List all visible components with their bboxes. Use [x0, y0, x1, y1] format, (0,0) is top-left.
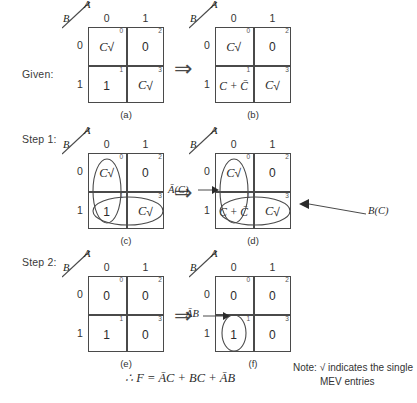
check-icon: √ [107, 166, 114, 180]
cell-value: C√ [127, 192, 164, 229]
kmap-d-caption: (d) [215, 235, 291, 246]
cell-value: 1 [88, 66, 125, 103]
kmap-a: A B 0 1 0 1 0 C√ 2 0 1 1 3 C√ (a) [88, 27, 164, 103]
kmap-d-row-header-0: 0 [202, 165, 212, 177]
kmap-a-cell-0: 0 C√ [88, 27, 125, 64]
axis-label-b: B [190, 13, 196, 24]
kmap-e-cell-3: 3 0 [127, 315, 164, 352]
kmap-c-row-header-1: 1 [75, 204, 85, 216]
check-icon: √ [234, 166, 241, 180]
cell-value: 0 [127, 315, 164, 352]
kmap-d-cell-3: 3 C√ [254, 192, 291, 229]
kmap-f-cell-2: 2 0 [254, 276, 291, 313]
kmap-c-cell-3: 3 C√ [127, 192, 164, 229]
step1-label: Step 1: [22, 133, 57, 145]
kmap-f-col-header-0: 0 [215, 261, 252, 273]
check-icon: √ [234, 40, 241, 54]
kmap-e-row-header-1: 1 [75, 327, 85, 339]
cell-value: C + C̄ [215, 66, 252, 103]
kmap-b: A B 0 1 0 1 0 C√ 2 0 1 C + C̄ 3 C√ (b) [215, 27, 291, 103]
kmap-d-cell-0: 0 C√ [215, 153, 252, 190]
cell-value: 0 [254, 315, 291, 352]
kmap-e-cell-2: 2 0 [127, 276, 164, 313]
kmap-d-col-header-0: 0 [215, 138, 252, 150]
check-icon: √ [146, 205, 153, 219]
kmap-b-col-header-1: 1 [254, 12, 291, 24]
leader-a-bar-c [198, 183, 220, 197]
kmap-a-col-header-1: 1 [127, 12, 164, 24]
cell-value: 0 [215, 276, 252, 313]
cell-value: C√ [215, 153, 252, 190]
cell-value: C√ [88, 27, 125, 64]
kmap-b-cell-3: 3 C√ [254, 66, 291, 103]
axis-label-a: A [211, 0, 217, 10]
implies-arrow-ab: ⇒ [174, 58, 192, 80]
kmap-b-cell-2: 2 0 [254, 27, 291, 64]
axis-label-a: A [211, 248, 217, 259]
kmap-b-row-header-1: 1 [202, 78, 212, 90]
kmap-e-caption: (e) [88, 358, 164, 369]
kmap-f-cell-0: 0 0 [215, 276, 252, 313]
kmap-c-col-header-1: 1 [127, 138, 164, 150]
kmap-c-cell-2: 2 0 [127, 153, 164, 190]
cell-value: C√ [215, 27, 252, 64]
check-icon: √ [273, 205, 280, 219]
note-line-2: MEV entries [320, 375, 374, 389]
cell-value: C√ [127, 66, 164, 103]
kmap-c-col-header-0: 0 [88, 138, 125, 150]
cell-value: 0 [254, 276, 291, 313]
kmap-d-cell-2: 2 0 [254, 153, 291, 190]
axis-label-b: B [190, 262, 196, 273]
cell-value: C√ [254, 192, 291, 229]
kmap-d-col-header-1: 1 [254, 138, 291, 150]
axis-label-b: B [63, 262, 69, 273]
kmap-e-row-header-0: 0 [75, 288, 85, 300]
axis-label-b: B [63, 139, 69, 150]
note-line-1: Note: √ indicates the single [293, 361, 413, 375]
kmap-a-col-header-0: 0 [88, 12, 125, 24]
check-icon: √ [273, 79, 280, 93]
cell-value: 0 [254, 153, 291, 190]
step2-label: Step 2: [22, 256, 57, 268]
kmap-e-col-header-1: 1 [127, 261, 164, 273]
kmap-b-row-header-0: 0 [202, 39, 212, 51]
leader-b-c [295, 196, 367, 218]
kmap-f-cell-3: 3 0 [254, 315, 291, 352]
kmap-a-cell-3: 3 C√ [127, 66, 164, 103]
kmap-a-caption: (a) [88, 109, 164, 120]
axis-label-b: B [190, 139, 196, 150]
kmap-b-col-header-0: 0 [215, 12, 252, 24]
annotation-a-bar-c: Ā(C) [168, 184, 188, 195]
axis-label-a: A [84, 125, 90, 136]
kmap-a-cell-1: 1 1 [88, 66, 125, 103]
kmap-d: A B 0 1 0 1 0 C√ 2 0 1 C + C̄ 3 C√ (d) [215, 153, 291, 229]
axis-label-a: A [211, 125, 217, 136]
cell-value: 1 [88, 315, 125, 352]
kmap-a-row-header-1: 1 [75, 78, 85, 90]
axis-label-b: B [63, 13, 69, 24]
cell-value: 0 [254, 27, 291, 64]
result-formula: ∴ F = ĀC + BC + ĀB [125, 370, 235, 386]
kmap-c-row-header-0: 0 [75, 165, 85, 177]
kmap-d-cell-1: 1 C + C̄ [215, 192, 252, 229]
leader-a-bar-b [203, 310, 231, 322]
check-icon: √ [146, 79, 153, 93]
kmap-b-caption: (b) [215, 109, 291, 120]
cell-value: 0 [127, 27, 164, 64]
kmap-a-cell-2: 2 0 [127, 27, 164, 64]
cell-value: 0 [127, 153, 164, 190]
cell-value: 0 [88, 276, 125, 313]
cell-value: 0 [127, 276, 164, 313]
kmap-b-cell-1: 1 C + C̄ [215, 66, 252, 103]
given-label: Given: [22, 68, 54, 80]
kmap-c-cell-0: 0 C√ [88, 153, 125, 190]
axis-label-a: A [84, 248, 90, 259]
cell-value: C + C̄ [215, 192, 252, 229]
kmap-c-cell-1: 1 1 [88, 192, 125, 229]
kmap-f-row-header-0: 0 [202, 288, 212, 300]
axis-label-a: A [84, 0, 90, 10]
annotation-b-c: B(C) [368, 205, 388, 216]
cell-value: C√ [88, 153, 125, 190]
kmap-c: A B 0 1 0 1 0 C√ 2 0 1 1 3 C√ (c) [88, 153, 164, 229]
kmap-a-row-header-0: 0 [75, 39, 85, 51]
